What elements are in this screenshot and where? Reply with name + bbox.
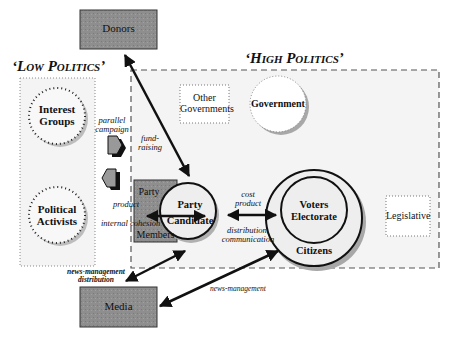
other-governments-line1: Other [180, 92, 229, 103]
voters-electorate-label: Voters Electorate [284, 199, 344, 222]
party-candidate-line2: Candidate [166, 213, 214, 229]
other-governments-label: Other Governments [180, 92, 229, 114]
news-management-distribution-label: news-management distribution [60, 268, 132, 285]
parallel-campaign-line2: campaign [92, 125, 132, 134]
donors-label: Donors [80, 22, 157, 34]
interest-groups-label: Interest Groups [29, 103, 85, 127]
legislative-label: Legislative [386, 210, 430, 221]
cost-product-line2: product [228, 199, 268, 208]
political-activists-line2: Activists [29, 215, 85, 227]
party-members-bottom-label: Members [134, 229, 177, 240]
media-label: Media [80, 300, 157, 312]
interest-groups-line2: Groups [29, 115, 85, 127]
parallel-campaign-label: parallel campaign [92, 116, 132, 135]
government-label: Government [250, 98, 306, 109]
other-governments-line2: Governments [180, 103, 229, 114]
interest-groups-line1: Interest [29, 103, 85, 115]
political-activists-label: Political Activists [29, 203, 85, 227]
party-candidate-label: Party Candidate [166, 197, 214, 229]
political-activists-line1: Political [29, 203, 85, 215]
voters-electorate-line2: Electorate [284, 211, 344, 223]
distribution-communication-label: distribution, communication [220, 226, 276, 245]
fund-raising-line2: raising [136, 143, 164, 152]
cost-product-label: cost product [228, 190, 268, 209]
news-management-label: news-management [210, 285, 266, 293]
internal-cohesion-label: internal cohesion [101, 219, 160, 228]
product-label: product [113, 200, 139, 209]
distribution-communication-line2: communication [220, 235, 276, 244]
low-politics-title: ‘Low Politics’ [12, 58, 105, 75]
citizens-label: Citizens [284, 245, 344, 257]
news-management-distribution-line2: distribution [60, 276, 132, 284]
party-members-top-label: Party [134, 186, 164, 197]
voters-electorate-line1: Voters [284, 199, 344, 211]
parallel-campaign-arrow-left [102, 169, 116, 187]
high-politics-title: ‘High Politics’ [245, 50, 344, 67]
fund-raising-label: fund- raising [136, 134, 164, 153]
party-candidate-line1: Party [166, 197, 214, 213]
